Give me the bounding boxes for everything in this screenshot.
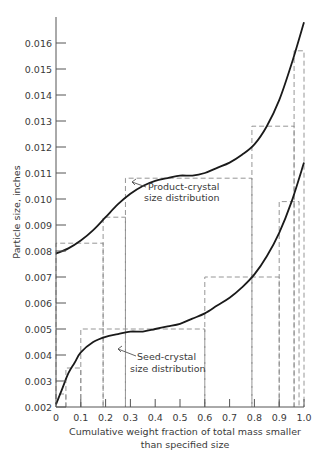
y-tick-label: 0.015 <box>25 64 52 75</box>
product-histogram-bin <box>252 126 294 407</box>
y-tick-label: 0.016 <box>25 38 52 49</box>
x-ticks: 00.10.20.30.40.50.60.70.80.91.0 <box>53 399 312 423</box>
y-ticks: 0.0020.0030.0040.0050.0060.0070.0080.009… <box>25 38 66 413</box>
x-tick-label: 0.8 <box>247 412 262 423</box>
y-tick-label: 0.006 <box>25 298 52 309</box>
seed-histogram-bin <box>205 277 279 407</box>
x-tick-label: 0.5 <box>172 412 187 423</box>
x-tick-label: 1.0 <box>296 412 311 423</box>
x-tick-label: 0.4 <box>148 412 163 423</box>
y-tick-label: 0.009 <box>25 220 52 231</box>
y-tick-label: 0.012 <box>25 142 52 153</box>
y-tick-label: 0.011 <box>25 168 52 179</box>
y-tick-label: 0.007 <box>25 272 52 283</box>
x-tick-label: 0.7 <box>222 412 237 423</box>
axes <box>56 17 304 407</box>
y-tick-label: 0.003 <box>25 376 52 387</box>
x-tick-label: 0.2 <box>98 412 113 423</box>
x-tick-label: 0.6 <box>197 412 212 423</box>
product-histogram-bin <box>103 217 125 407</box>
seed-annotation-arrow <box>118 346 136 356</box>
y-tick-label: 0.008 <box>25 246 52 257</box>
particle-size-chart: 0.0020.0030.0040.0050.0060.0070.0080.009… <box>0 0 326 458</box>
product-crystal-curve <box>56 22 304 253</box>
x-tick-label: 0.1 <box>73 412 88 423</box>
product-annotation-line2: size distribution <box>144 192 220 203</box>
y-tick-label: 0.002 <box>25 402 52 413</box>
product-annotation-arrow <box>132 179 146 187</box>
x-axis-title: Cumulative weight fraction of total mass… <box>69 426 301 437</box>
annotations: Product-crystal size distribution Seed-c… <box>118 179 220 374</box>
curve-layer <box>56 22 304 404</box>
y-tick-label: 0.014 <box>25 90 52 101</box>
seed-histogram-bin <box>279 202 299 407</box>
x-tick-label: 0.9 <box>272 412 287 423</box>
seed-annotation-line1: Seed-crystal <box>137 351 196 362</box>
product-histogram-bin <box>56 243 103 407</box>
seed-annotation-line2: size distribution <box>130 363 206 374</box>
x-tick-label: 0 <box>53 412 59 423</box>
product-annotation-line1: Product-crystal <box>148 181 219 192</box>
y-tick-label: 0.013 <box>25 116 52 127</box>
x-tick-label: 0.3 <box>123 412 138 423</box>
y-tick-label: 0.010 <box>25 194 52 205</box>
y-tick-label: 0.005 <box>25 324 52 335</box>
x-axis-title-line2: than specified size <box>141 439 230 450</box>
y-axis-title: Particle size, inches <box>11 165 22 258</box>
y-tick-label: 0.004 <box>25 350 52 361</box>
